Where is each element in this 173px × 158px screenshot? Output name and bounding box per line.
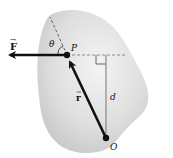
theta-label: θ [49,39,55,49]
force-label: F → [10,36,17,52]
point-p-dot [64,52,70,58]
rigid-body [37,10,148,153]
torque-diagram: F → θ P r → d O [0,0,173,158]
origin-dot [103,135,109,141]
position-label: r → [76,88,81,103]
svg-text:→: → [76,88,81,95]
origin-label: O [110,142,118,152]
distance-label: d [110,92,116,102]
point-p-label: P [70,43,78,53]
svg-text:→: → [10,36,16,44]
